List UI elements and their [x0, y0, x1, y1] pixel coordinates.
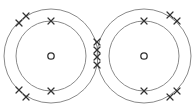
nucleus [141, 53, 147, 59]
nucleus [48, 53, 54, 59]
left-atom [4, 9, 98, 103]
right-atom [97, 9, 191, 103]
outer-shell [97, 9, 191, 103]
inner-shell [109, 21, 179, 91]
inner-shell [16, 21, 86, 91]
outer-shell-electron-cross-icon [23, 13, 29, 19]
covalent-bond-diagram [0, 0, 195, 106]
outer-shell-electron-cross-icon [16, 87, 22, 93]
